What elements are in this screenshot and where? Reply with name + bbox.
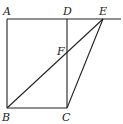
label-a: A	[2, 5, 11, 18]
segment-be	[7, 19, 103, 108]
geometry-diagram: A D E F B C	[0, 0, 123, 124]
label-b: B	[1, 111, 10, 124]
label-c: C	[62, 111, 71, 124]
label-d: D	[62, 5, 72, 18]
segment-ce	[67, 19, 103, 108]
label-e: E	[98, 5, 107, 18]
label-f: F	[56, 45, 65, 58]
